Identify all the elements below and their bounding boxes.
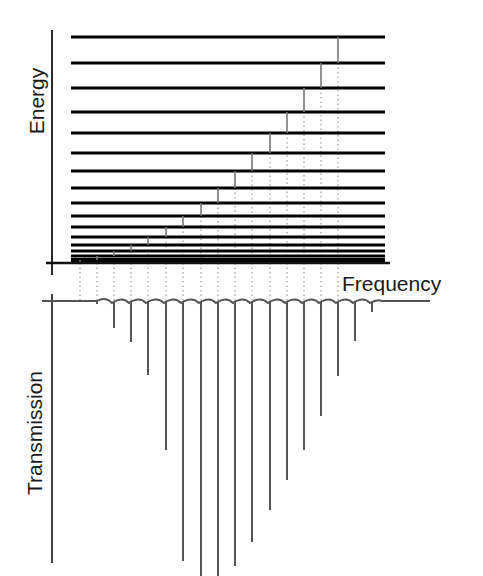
level-transitions: [80, 37, 338, 263]
transmission-axis-label: Transmission: [23, 371, 47, 495]
transmission-spectrum: [42, 299, 430, 576]
frequency-guide-lines: [80, 63, 338, 300]
energy-axis-label: Energy: [25, 68, 49, 135]
frequency-axis-label: Frequency: [342, 272, 441, 296]
energy-transmission-diagram: Energy Frequency Transmission: [0, 0, 483, 576]
